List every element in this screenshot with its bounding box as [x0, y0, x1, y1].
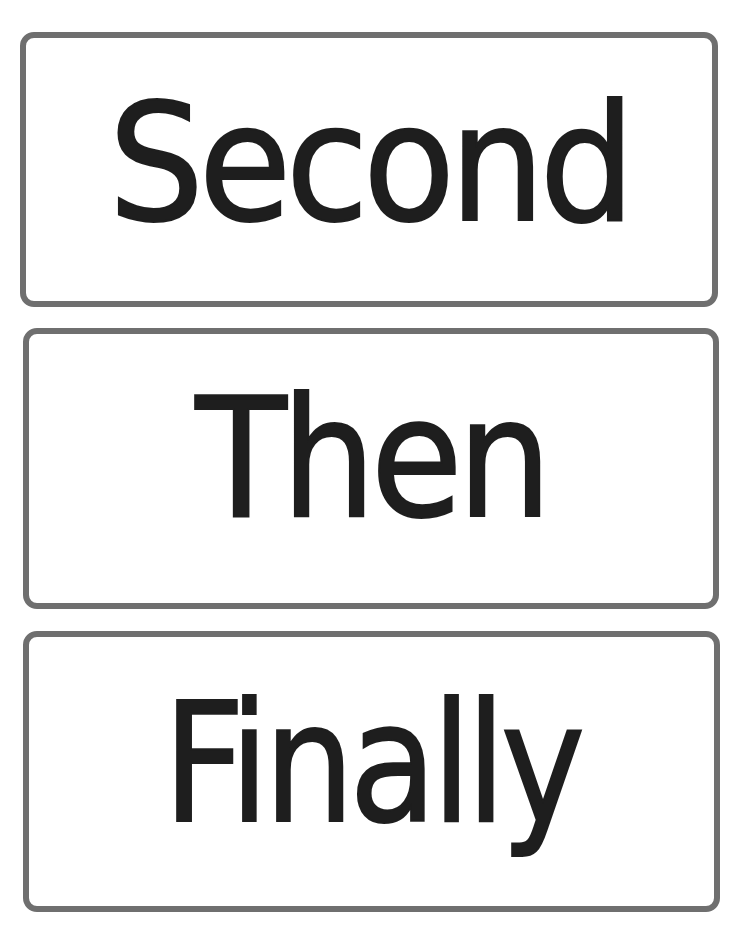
word-card-finally: Finally — [23, 631, 720, 912]
card-word: Second — [108, 83, 629, 245]
card-word: Then — [196, 376, 547, 542]
card-word: Finally — [163, 681, 580, 847]
word-card-then: Then — [23, 328, 719, 609]
word-card-second: Second — [20, 32, 718, 307]
